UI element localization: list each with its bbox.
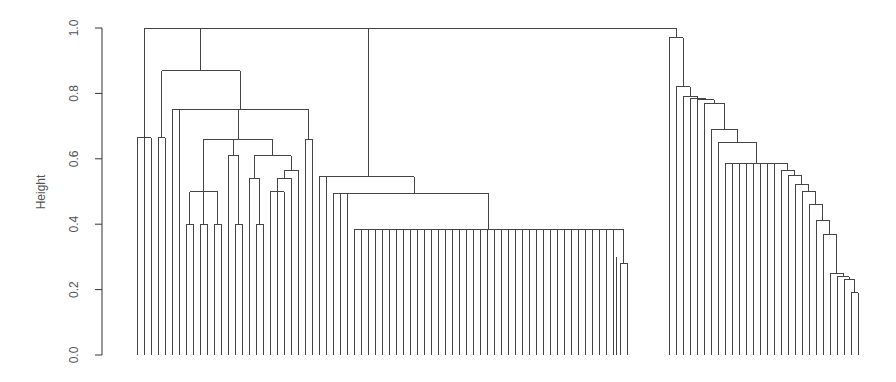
- y-tick-label: 0.6: [67, 150, 81, 167]
- y-tick-label: 1.0: [67, 19, 81, 36]
- dendrogram-tree: [137, 28, 858, 355]
- dendrogram-chart: 0.00.20.40.60.81.0 Height: [0, 0, 896, 382]
- y-tick-label: 0.8: [67, 85, 81, 102]
- y-axis-label: Height: [34, 174, 48, 209]
- y-tick-label: 0.2: [67, 281, 81, 298]
- y-tick-label: 0.0: [67, 346, 81, 363]
- y-axis: 0.00.20.40.60.81.0: [67, 19, 102, 363]
- y-tick-label: 0.4: [67, 216, 81, 233]
